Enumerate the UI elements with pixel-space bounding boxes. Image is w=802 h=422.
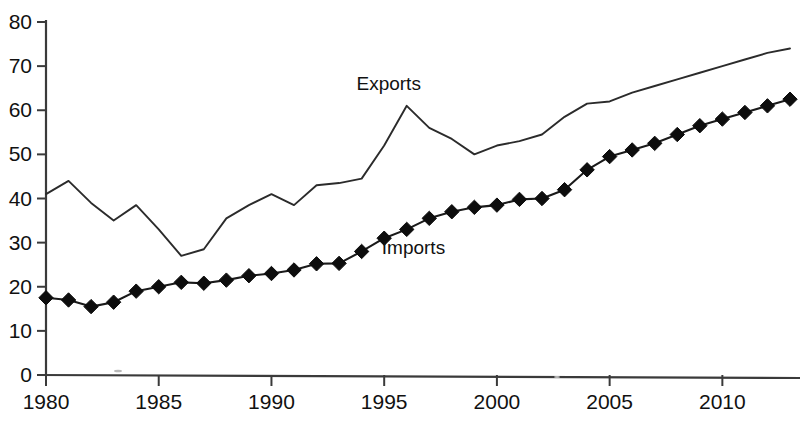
series-marker-imports [61,293,75,307]
x-axis: 1980198519901995200020052010 [23,375,800,413]
x-tick-label: 1985 [135,390,182,413]
series-label-imports: Imports [382,237,445,258]
series-marker-imports [693,118,707,132]
series-marker-imports [760,99,774,113]
series-marker-imports [197,276,211,290]
series-marker-imports [490,198,504,212]
x-tick-label: 1995 [361,390,408,413]
series-marker-imports [264,266,278,280]
series-marker-imports [219,273,233,287]
y-axis: 01020304050607080 [9,10,46,386]
series-marker-imports [152,280,166,294]
series-marker-imports [602,149,616,163]
y-tick-label: 40 [9,187,32,210]
y-tick-label: 50 [9,142,32,165]
series-marker-imports [39,291,53,305]
series-marker-imports [715,112,729,126]
series-marker-imports [512,192,526,206]
x-tick-label: 2000 [474,390,521,413]
series-marker-imports [535,191,549,205]
x-axis-line [38,375,800,378]
y-tick-label: 70 [9,54,32,77]
series-marker-imports [400,222,414,236]
series-marker-imports [174,275,188,289]
series-marker-imports [783,92,797,106]
y-tick-label: 30 [9,231,32,254]
series-marker-imports [445,205,459,219]
series-marker-imports [422,211,436,225]
series-marker-imports [738,105,752,119]
series-marker-imports [242,269,256,283]
x-tick-label: 2010 [699,390,746,413]
series-marker-imports [106,295,120,309]
y-tick-label: 20 [9,275,32,298]
series-marker-imports [354,244,368,258]
y-tick-label: 80 [9,10,32,33]
series-marker-imports [625,143,639,157]
series-marker-imports [84,299,98,313]
series-marker-imports [332,256,346,270]
line-chart: 01020304050607080 1980198519901995200020… [0,0,802,422]
series-label-exports: Exports [356,73,420,94]
chart-plot-area: 01020304050607080 1980198519901995200020… [0,0,802,422]
series-marker-imports [129,284,143,298]
series-marker-imports [309,257,323,271]
x-tick-label: 2005 [586,390,633,413]
x-tick-label: 1980 [23,390,70,413]
series-marker-imports [648,136,662,150]
series-marker-imports [670,127,684,141]
y-tick-label: 0 [20,363,32,386]
y-tick-label: 10 [9,319,32,342]
y-tick-label: 60 [9,98,32,121]
x-tick-label: 1990 [248,390,295,413]
series-marker-imports [467,200,481,214]
series-marker-imports [287,263,301,277]
